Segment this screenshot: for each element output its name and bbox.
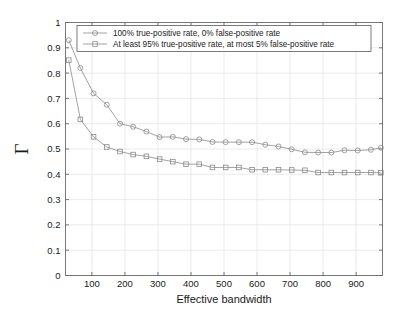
series-1 (66, 38, 383, 155)
series-line-2 (69, 60, 381, 173)
x-tick-label: 100 (84, 278, 100, 289)
y-axis-title: Γ (11, 143, 32, 154)
series-layer (66, 38, 383, 175)
x-tick-label: 400 (183, 278, 199, 289)
series-2 (67, 58, 384, 175)
y-tick-label: 0.3 (47, 194, 60, 205)
legend-label: At least 95% true-positive rate, at most… (113, 40, 335, 49)
y-tick-label: 0.7 (47, 93, 60, 104)
tick-label-layer: 10020030040050060070080090000.10.20.30.4… (47, 17, 364, 289)
chart-figure: 10020030040050060070080090000.10.20.30.4… (0, 0, 401, 320)
y-tick-label: 0 (55, 270, 60, 281)
y-tick-label: 0.6 (47, 118, 60, 129)
legend-entry-1[interactable]: 100% true-positive rate, 0% false-positi… (83, 29, 280, 38)
x-tick-label: 900 (348, 278, 364, 289)
y-tick-label: 0.2 (47, 219, 60, 230)
y-tick-label: 1 (55, 17, 60, 28)
y-tick-label: 0.8 (47, 68, 60, 79)
chart-legend: 100% true-positive rate, 0% false-positi… (77, 26, 371, 52)
y-tick-label: 0.4 (47, 169, 60, 180)
x-tick-label: 600 (249, 278, 265, 289)
x-axis-title: Effective bandwidth (176, 293, 271, 305)
series-line-1 (69, 40, 381, 152)
x-tick-label: 300 (150, 278, 166, 289)
legend-entry-2[interactable]: At least 95% true-positive rate, at most… (83, 40, 335, 49)
chart-canvas: 10020030040050060070080090000.10.20.30.4… (0, 0, 401, 320)
y-tick-label: 0.1 (47, 245, 60, 256)
x-tick-label: 500 (216, 278, 232, 289)
x-tick-label: 800 (315, 278, 331, 289)
x-tick-label: 200 (117, 278, 133, 289)
legend-label: 100% true-positive rate, 0% false-positi… (113, 29, 280, 38)
y-tick-label: 0.9 (47, 42, 60, 53)
x-tick-label: 700 (282, 278, 298, 289)
y-tick-label: 0.5 (47, 143, 60, 154)
